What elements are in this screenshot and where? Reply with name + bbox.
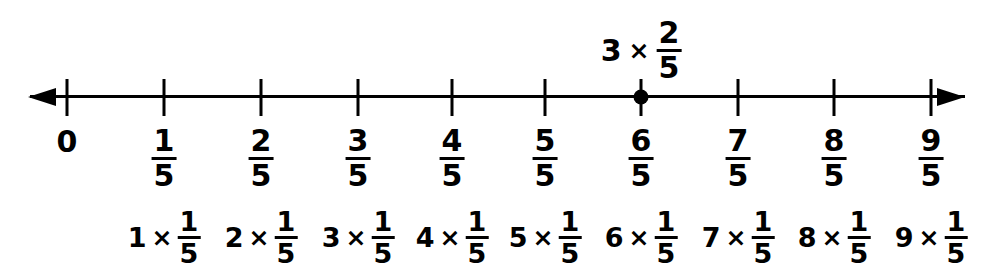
multiplication-expression: 6×15 (605, 208, 678, 267)
multiplication-expression: 8×15 (798, 208, 871, 267)
expression-denominator: 5 (751, 239, 774, 267)
fraction: 95 (919, 126, 944, 191)
tick-label-numerator: 6 (629, 126, 654, 157)
expression-multiplier: 5 (509, 222, 528, 253)
tick-label-denominator: 5 (822, 160, 847, 191)
tick-label-numerator: 9 (919, 126, 944, 157)
fraction: 25 (249, 126, 274, 191)
arrow-right-icon (937, 88, 965, 106)
expression-numerator: 1 (751, 208, 774, 236)
multiplication-sign-icon: × (152, 223, 173, 252)
multiplication-sign-icon: × (346, 223, 367, 252)
tick-label-numerator: 8 (822, 126, 847, 157)
tick-mark (66, 79, 69, 116)
multiplication-sign-icon: × (726, 223, 747, 252)
tick-mark (451, 79, 454, 116)
fraction: 55 (533, 126, 558, 191)
expression-multiplier: 8 (798, 222, 817, 253)
expression-multiplier: 9 (895, 222, 914, 253)
marked-point-dot (634, 89, 649, 104)
multiplication-sign-icon: × (440, 223, 461, 252)
annotation-denominator: 5 (656, 52, 681, 83)
fraction: 65 (629, 126, 654, 191)
multiplication-expression: 7×15 (702, 208, 775, 267)
multiplication-expression: 4×15 (416, 208, 489, 267)
tick-label-denominator: 5 (152, 160, 177, 191)
expression-multiplier: 2 (225, 222, 244, 253)
tick-label-denominator: 5 (726, 160, 751, 191)
fraction: 15 (371, 208, 394, 267)
expression-multiplier: 1 (128, 222, 147, 253)
tick-label-denominator: 5 (249, 160, 274, 191)
expression-numerator: 1 (177, 208, 200, 236)
multiplication-sign-icon: × (533, 223, 554, 252)
number-line-diagram: 0152535455565758595 1×152×153×154×155×15… (0, 0, 1002, 279)
expression-multiplier: 3 (322, 222, 341, 253)
number-line-axis (30, 95, 965, 98)
multiplication-sign-icon: × (822, 223, 843, 252)
expression-denominator: 5 (944, 239, 967, 267)
fraction: 15 (152, 126, 177, 191)
tick-label: 45 (440, 126, 465, 191)
expression-denominator: 5 (371, 239, 394, 267)
fraction: 15 (751, 208, 774, 267)
expression-denominator: 5 (847, 239, 870, 267)
fraction: 15 (558, 208, 581, 267)
expression-denominator: 5 (654, 239, 677, 267)
tick-label-denominator: 5 (440, 160, 465, 191)
fraction: 15 (847, 208, 870, 267)
tick-label: 85 (822, 126, 847, 191)
multiplication-expression: 5×15 (509, 208, 582, 267)
tick-label-numerator: 2 (249, 126, 274, 157)
fraction: 15 (944, 208, 967, 267)
multiplication-expression: 2×15 (225, 208, 298, 267)
expression-multiplier: 7 (702, 222, 721, 253)
expression-numerator: 1 (371, 208, 394, 236)
fraction: 15 (274, 208, 297, 267)
tick-label: 55 (533, 126, 558, 191)
multiplication-sign-icon: × (629, 223, 650, 252)
annotation-numerator: 2 (656, 18, 681, 49)
multiplication-sign-icon: × (919, 223, 940, 252)
tick-label-numerator: 7 (726, 126, 751, 157)
tick-mark (357, 79, 360, 116)
multiplication-expression: 1×15 (128, 208, 201, 267)
fraction: 15 (465, 208, 488, 267)
expression-denominator: 5 (558, 239, 581, 267)
expression-numerator: 1 (944, 208, 967, 236)
fraction: 15 (177, 208, 200, 267)
arrow-left-icon (28, 88, 56, 106)
tick-label-numerator: 3 (346, 126, 371, 157)
annotation-multiplier: 3 (601, 33, 622, 68)
tick-label-numerator: 1 (152, 126, 177, 157)
expression-numerator: 1 (654, 208, 677, 236)
tick-label-denominator: 5 (346, 160, 371, 191)
tick-mark (260, 79, 263, 116)
expression-numerator: 1 (465, 208, 488, 236)
tick-label-denominator: 5 (629, 160, 654, 191)
fraction: 35 (346, 126, 371, 191)
expression-numerator: 1 (847, 208, 870, 236)
tick-mark (737, 79, 740, 116)
tick-label: 65 (629, 126, 654, 191)
multiplication-sign-icon: × (249, 223, 270, 252)
tick-label: 35 (346, 126, 371, 191)
tick-mark (544, 79, 547, 116)
multiplication-expression: 3×15 (322, 208, 395, 267)
expression-numerator: 1 (274, 208, 297, 236)
expression-numerator: 1 (558, 208, 581, 236)
tick-label: 25 (249, 126, 274, 191)
expression-denominator: 5 (177, 239, 200, 267)
tick-label-denominator: 5 (533, 160, 558, 191)
fraction: 85 (822, 126, 847, 191)
point-annotation: 3×25 (601, 18, 682, 83)
tick-label: 15 (152, 126, 177, 191)
tick-mark (163, 79, 166, 116)
fraction: 25 (656, 18, 681, 83)
expression-denominator: 5 (465, 239, 488, 267)
tick-label: 75 (726, 126, 751, 191)
tick-mark (833, 79, 836, 116)
expression-multiplier: 6 (605, 222, 624, 253)
tick-label-denominator: 5 (919, 160, 944, 191)
multiplication-expression: 9×15 (895, 208, 968, 267)
